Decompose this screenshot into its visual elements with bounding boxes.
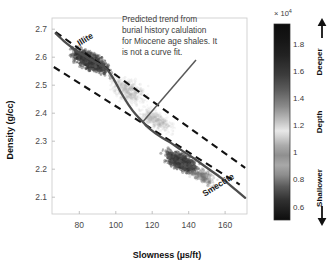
x-tick-label: 140	[182, 220, 196, 230]
colorbar-gradient	[274, 24, 290, 220]
figure-container: IlliteSmectite Predicted trend fromburia…	[0, 0, 335, 265]
colorbar-tick-label: 0.6	[293, 203, 305, 212]
y-axis-title: Density (g/cc)	[5, 100, 15, 159]
annotation-line: is not a curve fit.	[122, 47, 182, 57]
x-axis-title: Slowness (µs/ft)	[133, 250, 202, 260]
y-tick-label: 2.7	[35, 24, 47, 34]
colorbar-tick-label: 1	[293, 148, 298, 157]
colorbar-bottom-label: Shallower	[315, 169, 324, 207]
colorbar-tick-label: 0.8	[293, 175, 305, 184]
colorbar-tick-label: 1.2	[293, 121, 305, 130]
y-tick-label: 2.6	[35, 52, 47, 62]
x-tick-label: 80	[75, 220, 85, 230]
x-tick-label: 100	[109, 220, 123, 230]
colorbar-tick-label: 1.8	[293, 40, 305, 49]
annotation-line: burial history calulation	[122, 25, 207, 35]
colorbar-tick-label: 1.4	[293, 94, 305, 103]
y-tick-label: 2.1	[35, 192, 47, 202]
y-tick-label: 2.4	[35, 108, 47, 118]
colorbar-tick-label: 1.6	[293, 67, 305, 76]
y-tick-label: 2.2	[35, 164, 47, 174]
colorbar-top-label: Deeper	[315, 48, 324, 75]
x-tick-label: 160	[218, 220, 232, 230]
y-tick-label: 2.5	[35, 80, 47, 90]
x-tick-label: 120	[145, 220, 159, 230]
annotation-line: for Miocene age shales. It	[122, 36, 218, 46]
annotation-line: Predicted trend from	[122, 14, 197, 24]
y-tick-label: 2.3	[35, 136, 47, 146]
scatter-plot-svg: IlliteSmectite Predicted trend fromburia…	[0, 0, 335, 265]
colorbar-axis-label: Depth	[315, 111, 324, 134]
